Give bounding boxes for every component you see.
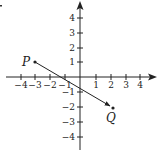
point-p: [33, 60, 36, 63]
point-p-label: P: [21, 55, 31, 69]
x-tick-label: 3: [123, 80, 129, 90]
y-tick-label: −4: [62, 132, 76, 142]
x-tick-label: 4: [137, 80, 143, 90]
x-tick-label: −4: [14, 80, 28, 90]
stray-mark: [0, 5, 2, 7]
x-tick-label: −2: [43, 80, 56, 90]
y-tick-label: −1: [62, 87, 75, 97]
y-tick-label: 3: [69, 28, 75, 38]
x-tick-label: 2: [108, 80, 114, 90]
y-tick-label: 1: [69, 57, 75, 67]
point-q-label: Q: [106, 111, 116, 125]
x-tick-label: −3: [28, 80, 42, 90]
point-q: [111, 106, 114, 109]
coordinate-plane: −4 −3 −2 −1 1 2 3 4 4 3 2 1 −1 −2 −3 −4: [0, 0, 157, 153]
x-tick-label: 1: [93, 80, 99, 90]
y-tick-label: −2: [62, 102, 75, 112]
x-axis: −4 −3 −2 −1 1 2 3 4: [6, 74, 157, 91]
y-tick-label: 2: [69, 43, 75, 53]
y-tick-label: −3: [62, 117, 76, 127]
y-tick-label: 4: [69, 13, 75, 23]
